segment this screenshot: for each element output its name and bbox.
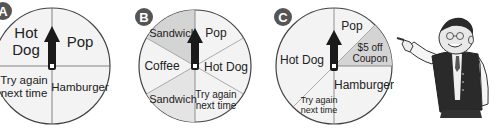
badge-label: B [139,10,148,25]
section-label: Pop [67,33,94,50]
badge-a: A [0,2,12,20]
badge-label: C [278,10,288,25]
section-label: Hot [14,24,38,41]
badge-b: B [135,8,153,26]
spinner-figure: Hot Dog Pop Hamburger Try again next tim… [0,0,495,129]
badge-c: C [274,8,292,26]
cartoon-man-illustration [397,18,488,118]
section-label: next time [301,105,338,115]
section-label: Pop [205,26,227,40]
section-label: next time [1,87,48,99]
spinner-b: Sandwich Pop Hot Dog Try again next time… [135,8,251,122]
badge-label: A [0,4,8,19]
section-label: Dog [12,41,40,58]
section-label: Try again [0,74,48,86]
section-label: Sandwich [149,27,197,39]
section-label: Sandwich [149,93,197,105]
section-label: Hot Dog [204,60,248,74]
spinner-a: Hot Dog Pop Hamburger Try again next tim… [0,2,110,124]
section-label: $5 off [358,42,383,53]
spinner-c: Pop $5 off Coupon Hamburger Try again ne… [274,8,394,124]
section-label: Hot Dog [280,53,324,67]
section-label: Pop [341,19,363,33]
section-label: Hamburger [334,78,394,92]
section-label: next time [196,100,237,111]
section-label: Try again [300,95,337,105]
section-label: Coffee [144,59,179,73]
section-label: Coupon [352,53,387,64]
section-label: Hamburger [51,81,109,93]
section-label: Try again [195,89,236,100]
